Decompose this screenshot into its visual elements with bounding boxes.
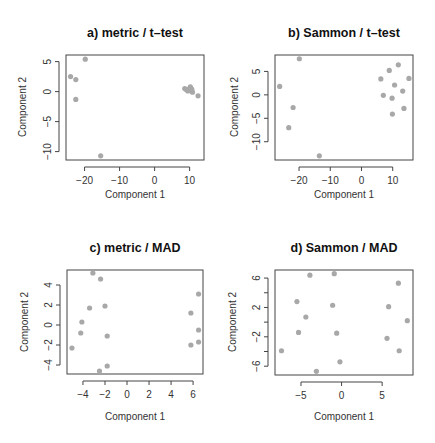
y-tick-label: 0 — [251, 92, 262, 98]
data-point — [195, 93, 200, 98]
data-point — [337, 359, 342, 364]
data-point — [396, 281, 401, 286]
data-point — [79, 319, 84, 324]
x-tick-label: 0 — [359, 175, 365, 186]
y-tick-label: −5 — [251, 112, 262, 124]
data-point — [330, 303, 335, 308]
data-point — [277, 84, 282, 89]
x-axis-label: Component 1 — [314, 189, 374, 200]
y-axis-label: Component 2 — [17, 77, 28, 137]
data-point — [378, 76, 383, 81]
data-point — [73, 97, 78, 102]
data-point — [294, 299, 299, 304]
y-tick-label: −10 — [251, 133, 262, 150]
data-point — [401, 106, 406, 111]
data-point — [389, 96, 394, 101]
data-point — [196, 291, 201, 296]
data-point — [188, 310, 193, 315]
data-point — [87, 305, 92, 310]
x-tick-label: 0 — [152, 175, 158, 186]
data-point — [396, 62, 401, 67]
y-tick-label: −5 — [42, 115, 53, 127]
data-point — [397, 348, 402, 353]
x-tick-label: 10 — [184, 175, 196, 186]
y-tick-label: 5 — [42, 58, 53, 64]
panel-title: a) metric / t–test — [87, 26, 184, 40]
data-point — [286, 125, 291, 130]
x-axis-label: Component 1 — [105, 411, 165, 422]
data-point — [317, 153, 322, 158]
y-tick-label: 0 — [43, 322, 54, 328]
data-point — [83, 57, 88, 62]
panel-title: d) Sammon / MAD — [291, 241, 398, 255]
x-tick-label: 10 — [387, 175, 399, 186]
x-tick-label: −4 — [77, 389, 89, 400]
x-tick-label: 5 — [379, 390, 385, 401]
data-point — [406, 76, 411, 81]
x-tick-label: 2 — [146, 389, 152, 400]
data-point — [279, 348, 284, 353]
data-point — [296, 330, 301, 335]
data-point — [314, 369, 319, 374]
data-point — [303, 314, 308, 319]
data-point — [102, 303, 107, 308]
scatter-figure: a) metric / t–test −20−1001050−5−10 Comp… — [0, 0, 435, 443]
y-tick-label: 4 — [43, 282, 54, 288]
data-point — [392, 82, 397, 87]
y-axis-label: Component 2 — [229, 77, 240, 137]
x-tick-label: 4 — [168, 389, 174, 400]
y-tick-label: −2 — [43, 339, 54, 351]
data-point — [297, 56, 302, 61]
y-axis-label: Component 2 — [227, 292, 238, 352]
x-tick-label: 6 — [190, 389, 196, 400]
data-point — [386, 304, 391, 309]
data-point — [196, 327, 201, 332]
x-tick-label: −20 — [291, 175, 308, 186]
data-point — [105, 363, 110, 368]
y-tick-label: 5 — [251, 68, 262, 74]
data-point — [190, 90, 195, 95]
x-axis-label: Component 1 — [105, 189, 165, 200]
panel-title: c) metric / MAD — [90, 241, 181, 255]
y-tick-label: −6 — [251, 360, 262, 372]
data-point — [68, 74, 73, 79]
data-point — [98, 153, 103, 158]
data-point — [73, 77, 78, 82]
data-point — [196, 339, 201, 344]
data-point — [390, 111, 395, 116]
y-axis-label: Component 2 — [19, 292, 30, 352]
y-tick-label: 2 — [43, 302, 54, 308]
data-point — [332, 271, 337, 276]
data-point — [188, 342, 193, 347]
y-tick-label: 6 — [251, 275, 262, 281]
y-tick-label: −2 — [251, 331, 262, 343]
x-tick-label: −10 — [322, 175, 339, 186]
y-tick-label: −4 — [43, 359, 54, 371]
panel-title: b) Sammon / t–test — [288, 26, 401, 40]
data-point — [184, 87, 189, 92]
data-point — [381, 93, 386, 98]
data-point — [78, 330, 83, 335]
x-tick-label: −2 — [99, 389, 111, 400]
x-tick-label: −10 — [111, 175, 128, 186]
data-point — [291, 105, 296, 110]
data-point — [105, 333, 110, 338]
x-tick-label: 0 — [124, 389, 130, 400]
data-point — [69, 345, 74, 350]
y-tick-label: −10 — [42, 143, 53, 160]
x-tick-label: −5 — [295, 390, 307, 401]
data-point — [405, 318, 410, 323]
data-point — [384, 336, 389, 341]
x-tick-label: 0 — [339, 390, 345, 401]
data-point — [400, 88, 405, 93]
figure-background — [0, 0, 435, 443]
y-tick-label: 0 — [42, 88, 53, 94]
x-tick-label: −20 — [76, 175, 93, 186]
y-tick-label: 2 — [251, 304, 262, 310]
data-point — [97, 368, 102, 373]
data-point — [98, 276, 103, 281]
data-point — [307, 273, 312, 278]
x-axis-label: Component 1 — [314, 411, 374, 422]
data-point — [90, 270, 95, 275]
data-point — [387, 68, 392, 73]
